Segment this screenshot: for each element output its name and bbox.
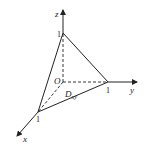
y-one-label: 1: [106, 86, 110, 95]
edge-z-x: [38, 33, 63, 112]
edge-z-y: [63, 33, 108, 82]
x-axis: [17, 112, 38, 136]
x-one-label: 1: [36, 115, 40, 124]
region-label-subscript: xy: [71, 94, 78, 100]
origin-label: O: [54, 76, 61, 86]
region-label: Dxy: [64, 89, 77, 100]
y-axis-label: y: [129, 85, 134, 95]
tetrahedron-diagram: z 1 O 1 y 1 x Dxy: [0, 0, 147, 158]
z-one-label: 1: [57, 30, 61, 39]
x-axis-label: x: [22, 134, 27, 144]
z-axis-label: z: [54, 9, 59, 19]
x-axis-hidden: [38, 82, 63, 112]
